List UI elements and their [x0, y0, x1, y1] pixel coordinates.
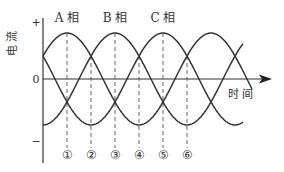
marker-1: ①: [62, 148, 73, 162]
marker-5: ⑤: [158, 148, 169, 162]
minus-mark: −: [31, 135, 40, 148]
phase-a-label: A 相: [54, 11, 79, 25]
x-axis-label: 时 间: [228, 88, 254, 101]
three-phase-current-diagram: + 0 − 电 流 时 间 A 相 B 相 C 相 ① ② ③ ④ ⑤ ⑥: [0, 0, 284, 172]
marker-2: ②: [86, 148, 97, 162]
marker-3: ③: [110, 148, 121, 162]
phase-c-label: C 相: [151, 11, 176, 25]
plus-mark: +: [31, 16, 40, 29]
y-axis-label: 电 流: [5, 31, 19, 57]
zero-mark: 0: [33, 73, 40, 86]
phase-b-label: B 相: [103, 11, 128, 25]
marker-6: ⑥: [182, 148, 193, 162]
marker-4: ④: [134, 148, 145, 162]
